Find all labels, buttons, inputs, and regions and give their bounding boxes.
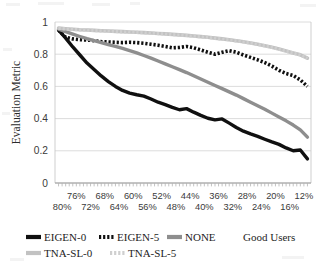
x-axis-tick-label: 68% [95,191,114,201]
series-line-tna-sl-0 [59,28,308,58]
y-axis-tick-label: 0.6 [34,81,48,92]
x-axis-tick-label: 76% [67,191,86,201]
x-axis-tick-label: 44% [181,191,200,201]
chart-canvas: 00.20.40.60.8176%68%60%52%44%36%28%20%12… [0,0,325,265]
x-axis-tick-label: 40% [195,202,214,212]
x-axis-tick-label: 20% [266,191,285,201]
chart-figure: 00.20.40.60.8176%68%60%52%44%36%28%20%12… [0,0,325,265]
x-axis-title: Good Users [243,231,295,243]
y-axis-tick-label: 1 [42,17,48,28]
y-axis-title: Evaluation Metric [10,61,22,144]
x-axis-tick-label: 32% [223,202,242,212]
legend-swatch-tna-sl-0 [26,251,41,255]
x-axis-tick-label: 64% [110,202,129,212]
series-line-eigen-5 [59,30,308,86]
legend-label-eigen-5: EIGEN-5 [117,231,160,243]
legend-label-eigen-0: EIGEN-0 [44,231,87,243]
x-axis-tick-label: 24% [252,202,271,212]
x-axis-tick-label: 12% [295,191,314,201]
y-axis-tick-label: 0.4 [34,113,48,124]
legend-label-tna-sl-5: TNA-SL-5 [128,247,177,259]
x-axis-tick-label: 60% [124,191,143,201]
x-axis-tick-label: 28% [238,191,257,201]
x-axis-tick-label: 72% [81,202,100,212]
legend-swatch-eigen-0 [26,235,41,239]
legend-swatch-none [167,235,182,239]
x-axis-tick-label: 48% [167,202,186,212]
series-line-eigen-0 [59,30,308,159]
y-axis-tick-label: 0.8 [34,49,48,60]
legend-label-none: NONE [185,231,216,243]
x-axis-tick-label: 36% [209,191,228,201]
legend-label-tna-sl-0: TNA-SL-0 [44,247,93,259]
y-axis-tick-label: 0 [42,178,48,189]
x-axis-tick-label: 56% [138,202,157,212]
x-axis-tick-label: 80% [53,202,72,212]
x-axis-tick-label: 16% [280,202,299,212]
y-axis-tick-label: 0.2 [34,145,48,156]
x-axis-tick-label: 52% [152,191,171,201]
